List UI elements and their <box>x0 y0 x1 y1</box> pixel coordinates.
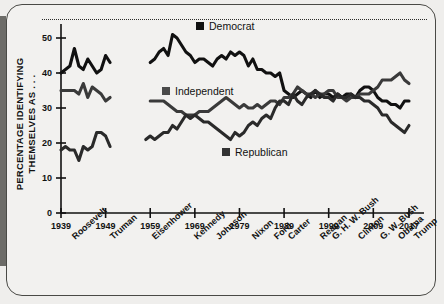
svg-text:20: 20 <box>42 138 52 148</box>
svg-text:10: 10 <box>42 173 52 183</box>
series-line-independent <box>61 84 110 102</box>
chart-axes <box>61 24 424 213</box>
series-line-democrat <box>150 35 409 109</box>
series-line-independent <box>150 73 409 115</box>
y-axis-ticks: 01020304050 <box>42 33 66 218</box>
svg-text:40: 40 <box>42 68 52 78</box>
line-chart-plot: 01020304050 1939194919591969197919891999… <box>0 0 444 304</box>
svg-text:30: 30 <box>42 103 52 113</box>
series-line-republican <box>61 133 110 161</box>
series-line-republican <box>146 91 409 140</box>
chart-series-group <box>61 35 409 161</box>
series-line-democrat <box>61 49 110 74</box>
svg-text:1939: 1939 <box>51 221 71 231</box>
svg-text:50: 50 <box>42 33 52 43</box>
svg-text:0: 0 <box>47 208 52 218</box>
